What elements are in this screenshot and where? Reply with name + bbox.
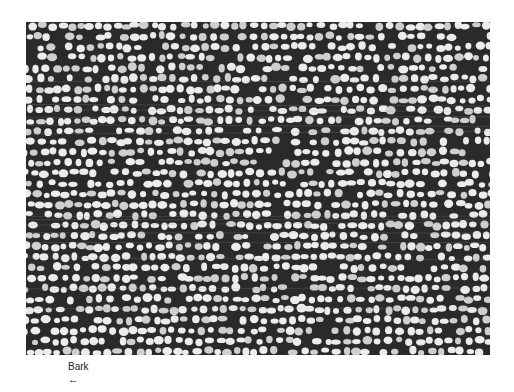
wood-micrograph [26,22,490,355]
tracheid-cells [26,22,490,355]
arrow-left-icon: ← [68,374,79,384]
bark-label: Bark [68,361,89,372]
